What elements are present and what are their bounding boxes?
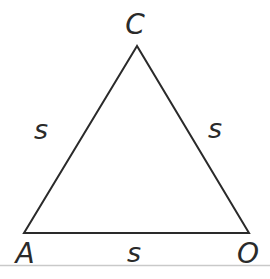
- side-label-bottom: s: [127, 237, 141, 268]
- side-label-left: s: [34, 114, 48, 145]
- triangle-figure: C A O s s s: [0, 0, 270, 279]
- vertex-label-top: C: [125, 8, 145, 41]
- triangle-diagram-svg: C A O s s s: [0, 0, 270, 279]
- vertex-label-bottom-right: O: [237, 237, 259, 270]
- vertex-label-bottom-left: A: [13, 237, 34, 270]
- side-label-right: s: [208, 113, 222, 144]
